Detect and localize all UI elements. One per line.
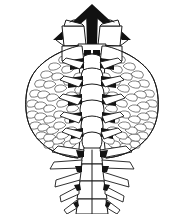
lizard-dorsal-illustration — [0, 0, 184, 214]
figure-root: Lizard, dorsal view — [0, 0, 184, 214]
vertebral-column — [80, 54, 104, 150]
